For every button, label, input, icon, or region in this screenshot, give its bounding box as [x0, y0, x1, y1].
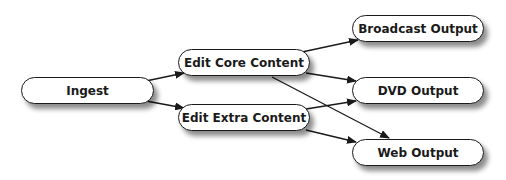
node-edit-extra-content: Edit Extra Content — [178, 104, 310, 131]
edge-edit-core-dvd — [306, 73, 356, 81]
edge-edit-extra-web — [306, 130, 356, 142]
edge-edit-core-broadcast — [302, 40, 358, 52]
edge-ingest-edit-extra — [146, 101, 184, 108]
workflow-diagram: Ingest Edit Core Content Edit Extra Cont… — [0, 0, 506, 180]
node-broadcast-output: Broadcast Output — [352, 15, 484, 42]
node-dvd-output: DVD Output — [352, 77, 484, 104]
node-web-output: Web Output — [352, 139, 484, 166]
node-edit-core-content: Edit Core Content — [178, 49, 310, 76]
edge-ingest-edit-core — [146, 73, 184, 81]
node-ingest: Ingest — [21, 77, 154, 104]
